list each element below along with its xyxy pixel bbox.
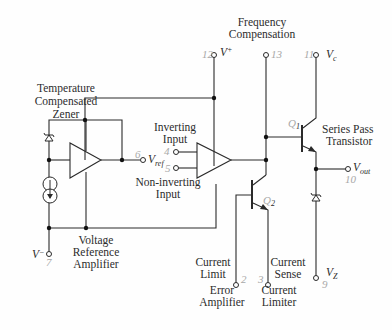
- label-current-limiter-1: Current: [261, 284, 297, 296]
- pin-inverting: [174, 150, 179, 155]
- label-temp-zener-1: Temperature: [37, 82, 95, 95]
- pin-number-vc: 11: [304, 48, 314, 60]
- pin-freq-comp: [264, 53, 269, 58]
- pin-current-limit: [234, 283, 239, 288]
- regulator-schematic: Temperature Compensated Zener Voltage Re…: [0, 0, 392, 330]
- pin-number-freq: 13: [271, 48, 283, 60]
- pin-vz: [314, 276, 319, 281]
- label-current-limit-1: Current: [195, 256, 231, 268]
- q1-emitter-arrow-icon: [308, 146, 316, 152]
- pin-number-vminus: 7: [46, 256, 52, 268]
- pin-number-vout: 10: [345, 173, 357, 185]
- symbol-vminus: V−: [32, 248, 44, 260]
- symbol-vz: VZ: [326, 266, 338, 281]
- pin-vc: [314, 53, 319, 58]
- label-current-limiter-2: Limiter: [262, 296, 297, 308]
- pin-noninverting: [174, 166, 179, 171]
- label-current-sense-1: Current: [270, 256, 306, 268]
- label-vra-3: Amplifier: [73, 258, 119, 271]
- label-noninverting-2: Input: [156, 188, 181, 201]
- output-zener-icon: [311, 193, 321, 201]
- label-vra-2: Reference: [73, 246, 120, 258]
- label-current-sense-2: Sense: [275, 268, 302, 280]
- reference-zener-icon: [44, 133, 54, 141]
- pin-number-vplus: 12: [202, 48, 214, 60]
- label-current-limit-2: Limit: [200, 268, 226, 280]
- label-temp-zener-3: Zener: [53, 108, 80, 120]
- label-error-amp-1: Error: [210, 284, 234, 296]
- pin-number-current-limit: 2: [241, 273, 247, 285]
- label-series-pass-1: Series Pass: [322, 123, 374, 135]
- label-q1: Q1: [288, 117, 300, 131]
- junction-nodes: [47, 96, 318, 230]
- pin-number-vref: 6: [135, 148, 141, 160]
- circuit-diagram: Temperature Compensated Zener Voltage Re…: [0, 0, 392, 330]
- symbol-vref: Vref: [148, 153, 165, 168]
- label-freq-comp-2: Compensation: [229, 28, 296, 41]
- label-series-pass-2: Transistor: [326, 135, 372, 147]
- pin-vref: [141, 158, 146, 163]
- pin-number-inverting: 4: [164, 145, 170, 157]
- pin-number-vz: 9: [322, 278, 328, 290]
- symbol-vplus: V+: [220, 45, 232, 58]
- symbol-vc: Vc: [326, 48, 337, 63]
- label-temp-zener-2: Compensated: [35, 95, 98, 108]
- pin-vout: [346, 167, 351, 172]
- pin-number-noninverting: 5: [165, 162, 171, 174]
- label-error-amp-2: Amplifier: [199, 296, 245, 309]
- pin-number-current-sense: 3: [257, 273, 264, 285]
- current-source-icon: [43, 177, 57, 203]
- label-q2: Q2: [263, 194, 275, 208]
